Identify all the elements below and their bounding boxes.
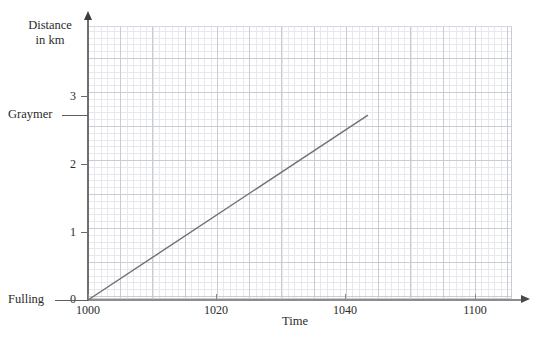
x-tick-label-1020: 1020 [186,303,246,317]
y-tick-label-3: 3 [52,90,76,102]
x-tick-label-1100: 1100 [445,303,505,317]
y-tick-mark-3 [81,96,88,97]
y-tick-mark-2 [81,164,88,165]
x-axis-line [88,299,523,301]
plot-grid-area [88,26,512,300]
plot-right-border [511,26,512,300]
y-axis-title-line1: Distance [18,18,82,33]
y-axis-title-line2: in km [18,33,82,48]
y-axis-line [87,18,89,301]
y-tick-mark-1 [81,232,88,233]
station-label-graymer: Graymer [8,108,52,121]
station-rule-fulling [55,300,88,301]
x-tick-mark-1020 [216,294,217,301]
x-axis-arrow-icon [521,295,530,303]
x-tick-mark-1040 [345,294,346,301]
page-top-text-artifact [0,0,541,2]
x-tick-label-1000: 1000 [58,303,118,317]
station-label-fulling: Fulling [8,293,44,306]
y-tick-label-1: 1 [52,226,76,238]
distance-time-graph: 3 2 1 0 1000 1020 1040 1100 Fulling Gray… [0,0,541,342]
x-tick-mark-1100 [475,294,476,301]
x-tick-mark-1000 [88,294,89,301]
station-rule-graymer [62,115,88,116]
y-axis-arrow-icon [84,11,92,20]
y-axis-title: Distance in km [18,18,82,48]
x-axis-title: Time [265,314,325,328]
y-tick-label-2: 2 [52,158,76,170]
plot-top-border [88,26,512,27]
